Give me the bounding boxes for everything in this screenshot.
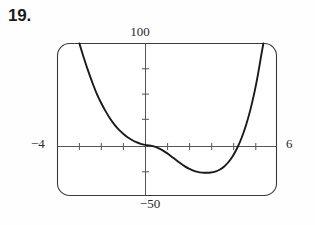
graph-svg xyxy=(0,0,315,225)
x-min-tick-label: −4 xyxy=(31,136,45,152)
y-max-tick-label: 100 xyxy=(130,24,150,40)
plot-frame xyxy=(58,44,277,196)
graph-window: 100 −50 −4 6 xyxy=(0,0,315,225)
worksheet-figure: 19. xyxy=(0,0,315,225)
x-max-tick-label: 6 xyxy=(286,136,293,152)
y-min-tick-label: −50 xyxy=(140,196,160,212)
